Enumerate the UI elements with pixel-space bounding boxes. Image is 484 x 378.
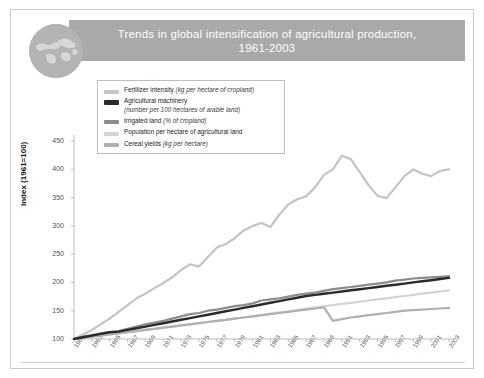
plot-area: Index (1961=100) 45040035030025020015010… <box>11 10 475 370</box>
footer-divider <box>21 362 465 363</box>
series-lines <box>11 10 475 370</box>
chart-card: Trends in global intensification of agri… <box>10 9 474 369</box>
